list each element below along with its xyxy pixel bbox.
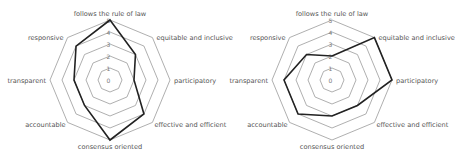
axis-label: consensus oriented: [78, 143, 142, 151]
axis-label: participatory: [396, 77, 438, 85]
tick-label: 3: [329, 41, 333, 48]
axis-label: participatory: [174, 77, 216, 85]
radar-chart-right: 012345follows the rule of lawequitable a…: [229, 10, 454, 151]
data-series-right: [284, 38, 392, 116]
axis-label: effective and efficient: [154, 121, 226, 129]
axis-label: consensus oriented: [300, 143, 364, 151]
tick-label: 1: [107, 65, 111, 72]
axis-label: equitable and inclusive: [378, 34, 454, 42]
tick-label: 0: [107, 77, 111, 84]
axis-label: accountable: [25, 121, 65, 129]
tick-label: 4: [329, 29, 333, 36]
tick-label: 2: [107, 53, 111, 60]
axis-label: responsive: [28, 34, 64, 42]
tick-label: 4: [107, 29, 111, 36]
axis-label: follows the rule of law: [296, 10, 369, 18]
tick-label: 1: [329, 65, 333, 72]
radar-chart-left: 012345follows the rule of lawequitable a…: [7, 10, 232, 151]
axis-label: follows the rule of law: [74, 10, 147, 18]
axis-label: equitable and inclusive: [156, 34, 232, 42]
axis-label: responsive: [250, 34, 286, 42]
axis-label: accountable: [247, 121, 287, 129]
radar-charts: 012345follows the rule of lawequitable a…: [0, 0, 455, 158]
tick-label: 0: [329, 77, 333, 84]
axis-label: transparent: [229, 77, 268, 85]
axis-label: transparent: [7, 77, 46, 85]
tick-label: 3: [107, 41, 111, 48]
axis-label: effective and efficient: [376, 121, 448, 129]
